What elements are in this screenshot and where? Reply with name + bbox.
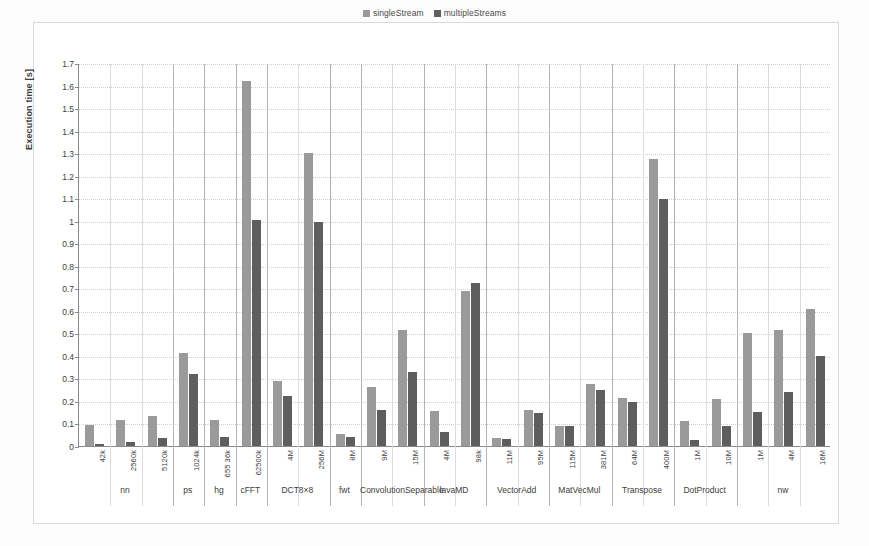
bar-singleStream [85,425,94,446]
y-tick-label: 1.4 [62,127,74,137]
bar-group: 11M [486,64,517,446]
legend-label: multipleStreams [444,8,506,18]
y-tick-label: 0 [69,442,74,452]
y-tick-label: 0.9 [62,239,74,249]
bar-group: 2560k [110,64,141,446]
bar-group: 15M [392,64,423,446]
group-label-nw: nw [736,485,830,495]
x-tick-label: 10M [724,450,733,465]
bar-multipleStreams [283,396,292,446]
x-tick-label: 9M [380,450,389,461]
bar-group: 9M [361,64,392,446]
y-tick-label: 0.6 [62,307,74,317]
plot-area: 00.10.20.30.40.50.60.70.80.911.11.21.31.… [78,64,830,447]
bar-multipleStreams [722,426,731,446]
bar-group: 8M [330,64,361,446]
bar-singleStream [430,411,439,446]
bar-multipleStreams [126,442,135,447]
bar-singleStream [618,398,627,446]
x-tick-label: 115M [568,450,577,469]
x-tick-label: 5120k [160,450,169,471]
bar-multipleStreams [565,426,574,446]
bar-singleStream [461,291,470,446]
bar-multipleStreams [596,390,605,446]
group-label-fwt: fwt [329,485,360,495]
y-tick-label: 1.7 [62,59,74,69]
bar-singleStream [555,426,564,446]
bar-singleStream [179,353,188,446]
bar-singleStream [336,434,345,446]
legend-entry-singleStream: singleStream [363,8,424,18]
y-tick-label: 1.1 [62,194,74,204]
y-tick-mark [75,447,79,448]
bar-group: 256M [298,64,329,446]
bar-chart-figure: singleStreammultipleStreams Execution ti… [0,0,869,546]
group-label-row: nnpshgcFFTDCT8×8fwtConvolutionSeparablel… [78,485,830,507]
bar-group: 42k [79,64,110,446]
x-tick-label: 95M [536,450,545,465]
group-label-DCT8×8: DCT8×8 [266,485,329,495]
x-tick-label: 400M [662,450,671,469]
bar-multipleStreams [784,392,793,446]
bar-group: 115M [549,64,580,446]
legend-swatch-icon [363,10,370,17]
legend-entry-multipleStreams: multipleStreams [434,8,506,18]
bar-multipleStreams [377,410,386,446]
x-tick-label: 2560k [129,450,138,471]
y-tick-label: 1 [69,217,74,227]
bar-multipleStreams [502,439,511,446]
chart-legend: singleStreammultipleStreams [0,8,869,18]
bar-multipleStreams [220,437,229,446]
bar-singleStream [774,330,783,446]
bar-multipleStreams [346,437,355,446]
y-tick-label: 0.5 [62,329,74,339]
y-tick-label: 0.2 [62,397,74,407]
bar-singleStream [524,410,533,446]
bar-singleStream [148,416,157,446]
bar-multipleStreams [158,438,167,446]
x-tick-label: 1024k [192,450,201,471]
bar-group: 655 36k [204,64,235,446]
bar-multipleStreams [753,412,762,446]
group-label-VectorAdd: VectorAdd [485,485,548,495]
x-tick-label: 1M [756,450,765,461]
bar-group: 64M [612,64,643,446]
bar-group: 400M [643,64,674,446]
bar-multipleStreams [471,283,480,446]
bar-multipleStreams [690,440,699,446]
bar-group: 1M [737,64,768,446]
group-label-ps: ps [172,485,203,495]
bar-singleStream [242,81,251,446]
bar-singleStream [116,420,125,446]
bar-multipleStreams [408,372,417,446]
bar-group: 5120k [142,64,173,446]
bar-multipleStreams [440,432,449,446]
bar-singleStream [273,381,282,446]
x-tick-label: 42k [98,450,107,462]
bar-multipleStreams [314,222,323,446]
y-tick-label: 0.3 [62,374,74,384]
bar-group: 4M [768,64,799,446]
x-tick-label: 15M [411,450,420,465]
bar-multipleStreams [628,402,637,446]
bar-group: 4M [267,64,298,446]
group-label-nn: nn [78,485,172,495]
bar-multipleStreams [659,199,668,446]
x-tick-label: 64M [630,450,639,465]
bar-singleStream [492,438,501,446]
group-label-ConvolutionSeparable: ConvolutionSeparable [360,485,423,495]
bar-group: 95M [518,64,549,446]
group-label-cFFT: cFFT [235,485,266,495]
legend-label: singleStream [373,8,424,18]
x-tick-label: 4M [286,450,295,461]
legend-swatch-icon [434,10,441,17]
y-tick-label: 1.5 [62,104,74,114]
bar-singleStream [649,159,658,446]
x-tick-label: 98k [474,450,483,462]
bar-singleStream [304,153,313,446]
group-label-hg: hg [203,485,234,495]
x-tick-label: 62500k [254,450,263,475]
bar-singleStream [398,330,407,446]
bar-group: 10M [706,64,737,446]
x-tick-label: 8M [348,450,357,461]
